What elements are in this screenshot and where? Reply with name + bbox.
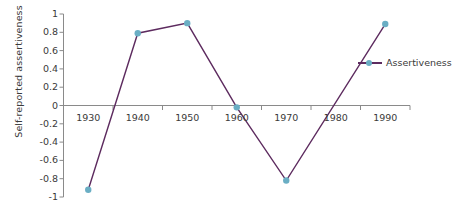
data-point-marker <box>135 30 141 36</box>
legend-dot-icon <box>366 60 372 66</box>
data-point-marker <box>283 177 289 183</box>
assertiveness-line-chart: Self-reported assertiveness 10.80.60.40.… <box>0 0 473 211</box>
y-tick-label: -1 <box>24 192 58 202</box>
y-tick-label: 1 <box>24 9 58 19</box>
chart-legend: Assertiveness <box>358 57 452 68</box>
x-tick-label: 1980 <box>311 112 361 123</box>
legend-label-assertiveness: Assertiveness <box>386 57 452 68</box>
data-point-marker <box>234 104 240 110</box>
y-tick-label: 0.6 <box>24 46 58 56</box>
y-tick-label: -0.8 <box>24 174 58 184</box>
y-tick-label: 0.4 <box>24 64 58 74</box>
x-tick-label: 1990 <box>360 112 410 123</box>
x-tick-label: 1970 <box>261 112 311 123</box>
x-tick-label: 1950 <box>162 112 212 123</box>
y-axis-tick-labels: 10.80.60.40.20-0.2-0.4-0.6-0.8-1 <box>20 0 58 211</box>
y-tick-label: 0 <box>24 101 58 111</box>
y-tick-label: 0.8 <box>24 27 58 37</box>
y-tick-label: -0.4 <box>24 137 58 147</box>
data-point-marker <box>85 186 91 192</box>
data-point-marker <box>382 21 388 27</box>
plot-area <box>0 0 473 211</box>
series-markers-assertiveness <box>85 20 388 193</box>
y-tick-label: 0.2 <box>24 82 58 92</box>
x-tick-label: 1930 <box>63 112 113 123</box>
y-tick-label: -0.2 <box>24 119 58 129</box>
x-tick-label: 1960 <box>212 112 262 123</box>
data-point-marker <box>184 20 190 26</box>
x-tick-label: 1940 <box>113 112 163 123</box>
legend-marker-icon <box>358 58 382 68</box>
y-axis-ticks <box>60 14 64 197</box>
y-tick-label: -0.6 <box>24 155 58 165</box>
